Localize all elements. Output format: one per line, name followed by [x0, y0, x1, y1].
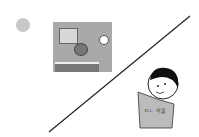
- svg-text:ㅁㄴ 식물: ㅁㄴ 식물: [144, 107, 166, 114]
- boy-reading-illustration: ㅁㄴ 식물: [0, 0, 199, 137]
